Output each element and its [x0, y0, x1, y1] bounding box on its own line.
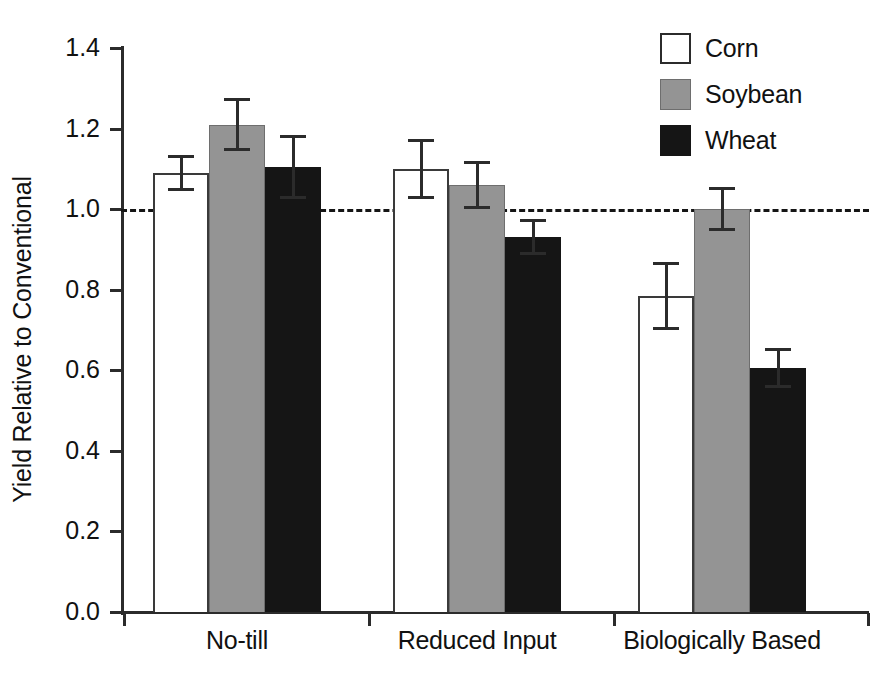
x-axis-tick-mark: [123, 613, 126, 626]
y-axis-tick-label: 1.4: [0, 35, 100, 60]
bar-wheat-group-2[interactable]: [505, 237, 561, 612]
y-axis-line: [121, 46, 124, 615]
legend-label-wheat: Wheat: [705, 126, 776, 155]
error-bar-cap-lower: [709, 228, 735, 231]
y-axis-tick-label: 0.0: [0, 599, 100, 624]
error-bar-cap-lower: [168, 188, 194, 191]
x-axis-tick-mark: [613, 613, 616, 626]
error-bar-wheat-group-2: [520, 219, 546, 255]
error-bar-cap-lower: [280, 196, 306, 199]
error-bar-cap-upper: [408, 139, 434, 142]
legend-item-soybean[interactable]: Soybean: [660, 71, 802, 117]
x-axis-tick-mark: [368, 613, 371, 626]
error-bar-stem: [292, 135, 295, 199]
error-bar-wheat-group-1: [280, 135, 306, 199]
legend-label-corn: Corn: [705, 34, 758, 63]
error-bar-soybean-group-1: [224, 98, 250, 150]
y-axis-tick-label: 0.4: [0, 438, 100, 463]
error-bar-cap-lower: [224, 148, 250, 151]
bar-soybean-group-2[interactable]: [449, 185, 505, 612]
legend-item-wheat[interactable]: Wheat: [660, 117, 802, 163]
x-axis-tick-mark: [867, 613, 870, 626]
chart-legend: Corn Soybean Wheat: [660, 25, 802, 163]
legend-swatch-corn-icon: [660, 33, 691, 64]
error-bar-wheat-group-3: [765, 348, 791, 388]
y-axis-title: Yield Relative to Conventional: [0, 0, 44, 679]
legend-swatch-soybean-icon: [660, 79, 691, 110]
error-bar-stem: [180, 155, 183, 191]
legend-label-soybean: Soybean: [705, 80, 802, 109]
bar-soybean-group-1[interactable]: [209, 125, 265, 612]
y-axis-tick-label: 0.6: [0, 357, 100, 382]
error-bar-cap-upper: [464, 161, 490, 164]
bar-soybean-group-3[interactable]: [694, 209, 750, 612]
y-axis-tick-label: 1.0: [0, 196, 100, 221]
error-bar-corn-group-2: [408, 139, 434, 199]
bar-wheat-group-3[interactable]: [750, 368, 806, 612]
error-bar-stem: [420, 139, 423, 199]
x-axis-group-label-3: Biologically Based: [562, 626, 882, 655]
y-axis-tick-label: 1.2: [0, 116, 100, 141]
bar-corn-group-3[interactable]: [638, 296, 694, 612]
error-bar-cap-lower: [765, 385, 791, 388]
error-bar-corn-group-1: [168, 155, 194, 191]
error-bar-stem: [665, 262, 668, 330]
error-bar-stem: [532, 219, 535, 255]
error-bar-stem: [777, 348, 780, 388]
error-bar-corn-group-3: [653, 262, 679, 330]
error-bar-cap-lower: [464, 206, 490, 209]
error-bar-cap-upper: [765, 348, 791, 351]
error-bar-soybean-group-2: [464, 161, 490, 209]
error-bar-cap-upper: [653, 262, 679, 265]
bar-chart: Yield Relative to Conventional 0.00.20.4…: [0, 0, 882, 679]
error-bar-stem: [476, 161, 479, 209]
error-bar-cap-upper: [168, 155, 194, 158]
bar-wheat-group-1[interactable]: [265, 167, 321, 612]
error-bar-soybean-group-3: [709, 187, 735, 231]
error-bar-cap-lower: [653, 327, 679, 330]
bar-corn-group-1[interactable]: [153, 173, 209, 612]
legend-item-corn[interactable]: Corn: [660, 25, 802, 71]
error-bar-cap-upper: [520, 219, 546, 222]
bar-corn-group-2[interactable]: [393, 169, 449, 612]
error-bar-cap-lower: [408, 196, 434, 199]
y-axis-tick-label: 0.2: [0, 518, 100, 543]
y-axis-tick-label: 0.8: [0, 277, 100, 302]
error-bar-stem: [721, 187, 724, 231]
error-bar-cap-upper: [709, 187, 735, 190]
error-bar-stem: [236, 98, 239, 150]
error-bar-cap-upper: [224, 98, 250, 101]
error-bar-cap-lower: [520, 252, 546, 255]
legend-swatch-wheat-icon: [660, 125, 691, 156]
error-bar-cap-upper: [280, 135, 306, 138]
